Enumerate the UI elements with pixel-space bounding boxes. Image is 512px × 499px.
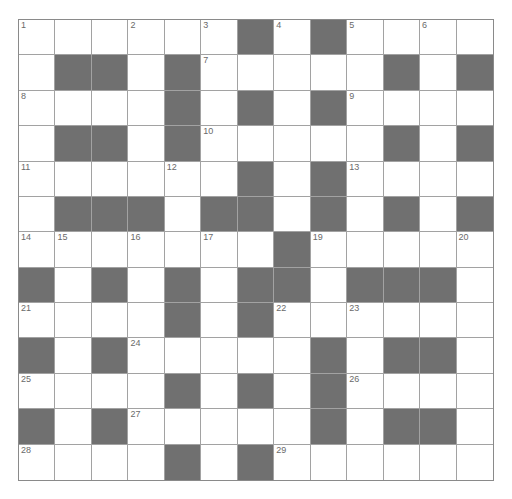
answer-cell[interactable]: [420, 374, 456, 409]
answer-cell[interactable]: [201, 303, 237, 338]
answer-cell[interactable]: [19, 55, 55, 90]
answer-cell[interactable]: [128, 162, 164, 197]
answer-cell[interactable]: [201, 91, 237, 126]
answer-cell[interactable]: 3: [201, 20, 237, 55]
answer-cell[interactable]: [128, 445, 164, 480]
answer-cell[interactable]: [238, 232, 274, 267]
answer-cell[interactable]: [274, 409, 310, 444]
answer-cell[interactable]: [420, 55, 456, 90]
answer-cell[interactable]: 9: [347, 91, 383, 126]
answer-cell[interactable]: [457, 162, 493, 197]
answer-cell[interactable]: 5: [347, 20, 383, 55]
answer-cell[interactable]: [201, 409, 237, 444]
answer-cell[interactable]: [92, 303, 128, 338]
answer-cell[interactable]: [201, 268, 237, 303]
answer-cell[interactable]: [274, 91, 310, 126]
answer-cell[interactable]: [274, 126, 310, 161]
answer-cell[interactable]: [55, 162, 91, 197]
answer-cell[interactable]: [420, 232, 456, 267]
answer-cell[interactable]: 25: [19, 374, 55, 409]
answer-cell[interactable]: [457, 303, 493, 338]
answer-cell[interactable]: 28: [19, 445, 55, 480]
answer-cell[interactable]: 7: [201, 55, 237, 90]
answer-cell[interactable]: 11: [19, 162, 55, 197]
answer-cell[interactable]: [274, 162, 310, 197]
answer-cell[interactable]: [19, 126, 55, 161]
answer-cell[interactable]: [55, 91, 91, 126]
answer-cell[interactable]: [384, 20, 420, 55]
answer-cell[interactable]: [238, 338, 274, 373]
answer-cell[interactable]: [347, 55, 383, 90]
answer-cell[interactable]: [274, 374, 310, 409]
answer-cell[interactable]: [311, 303, 347, 338]
answer-cell[interactable]: [274, 55, 310, 90]
answer-cell[interactable]: [384, 374, 420, 409]
answer-cell[interactable]: [384, 162, 420, 197]
answer-cell[interactable]: [457, 445, 493, 480]
answer-cell[interactable]: [238, 409, 274, 444]
answer-cell[interactable]: 13: [347, 162, 383, 197]
answer-cell[interactable]: [384, 91, 420, 126]
answer-cell[interactable]: [420, 303, 456, 338]
answer-cell[interactable]: [19, 197, 55, 232]
answer-cell[interactable]: [457, 409, 493, 444]
answer-cell[interactable]: 22: [274, 303, 310, 338]
answer-cell[interactable]: 17: [201, 232, 237, 267]
answer-cell[interactable]: [201, 374, 237, 409]
answer-cell[interactable]: 4: [274, 20, 310, 55]
answer-cell[interactable]: [128, 268, 164, 303]
answer-cell[interactable]: 2: [128, 20, 164, 55]
answer-cell[interactable]: [55, 445, 91, 480]
answer-cell[interactable]: 20: [457, 232, 493, 267]
answer-cell[interactable]: [384, 303, 420, 338]
answer-cell[interactable]: [238, 126, 274, 161]
answer-cell[interactable]: [274, 338, 310, 373]
answer-cell[interactable]: [92, 91, 128, 126]
answer-cell[interactable]: 19: [311, 232, 347, 267]
answer-cell[interactable]: [92, 374, 128, 409]
answer-cell[interactable]: [128, 303, 164, 338]
answer-cell[interactable]: [92, 20, 128, 55]
answer-cell[interactable]: 21: [19, 303, 55, 338]
answer-cell[interactable]: [201, 338, 237, 373]
answer-cell[interactable]: [165, 232, 201, 267]
answer-cell[interactable]: [165, 409, 201, 444]
answer-cell[interactable]: 27: [128, 409, 164, 444]
answer-cell[interactable]: 14: [19, 232, 55, 267]
answer-cell[interactable]: 15: [55, 232, 91, 267]
answer-cell[interactable]: [457, 338, 493, 373]
answer-cell[interactable]: 26: [347, 374, 383, 409]
answer-cell[interactable]: [165, 197, 201, 232]
answer-cell[interactable]: [55, 374, 91, 409]
answer-cell[interactable]: [347, 338, 383, 373]
answer-cell[interactable]: [238, 55, 274, 90]
answer-cell[interactable]: [457, 268, 493, 303]
answer-cell[interactable]: [311, 445, 347, 480]
answer-cell[interactable]: 16: [128, 232, 164, 267]
answer-cell[interactable]: [420, 197, 456, 232]
answer-cell[interactable]: [128, 91, 164, 126]
answer-cell[interactable]: [55, 338, 91, 373]
answer-cell[interactable]: 1: [19, 20, 55, 55]
answer-cell[interactable]: [55, 409, 91, 444]
answer-cell[interactable]: [128, 126, 164, 161]
answer-cell[interactable]: [347, 409, 383, 444]
answer-cell[interactable]: [201, 162, 237, 197]
answer-cell[interactable]: [92, 232, 128, 267]
answer-cell[interactable]: [457, 20, 493, 55]
answer-cell[interactable]: 8: [19, 91, 55, 126]
answer-cell[interactable]: 29: [274, 445, 310, 480]
answer-cell[interactable]: [457, 374, 493, 409]
answer-cell[interactable]: [384, 232, 420, 267]
answer-cell[interactable]: [347, 232, 383, 267]
answer-cell[interactable]: [347, 445, 383, 480]
answer-cell[interactable]: [165, 20, 201, 55]
answer-cell[interactable]: 10: [201, 126, 237, 161]
answer-cell[interactable]: [55, 268, 91, 303]
answer-cell[interactable]: [420, 162, 456, 197]
answer-cell[interactable]: [347, 126, 383, 161]
answer-cell[interactable]: [457, 91, 493, 126]
answer-cell[interactable]: 12: [165, 162, 201, 197]
answer-cell[interactable]: 23: [347, 303, 383, 338]
answer-cell[interactable]: [311, 268, 347, 303]
